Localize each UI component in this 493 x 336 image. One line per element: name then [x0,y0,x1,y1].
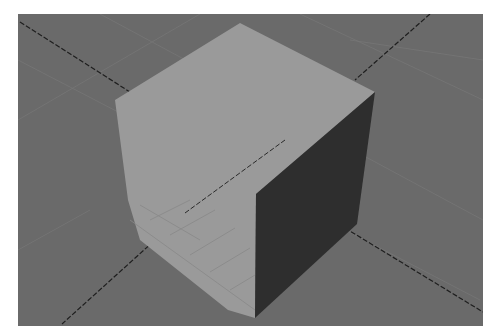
scene-render [18,14,483,326]
3d-viewport [18,14,483,326]
